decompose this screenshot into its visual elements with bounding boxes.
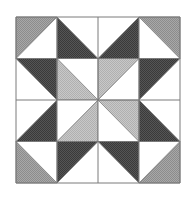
- quilt-block-figure: [0, 0, 193, 200]
- quilt-block-svg: [0, 0, 193, 200]
